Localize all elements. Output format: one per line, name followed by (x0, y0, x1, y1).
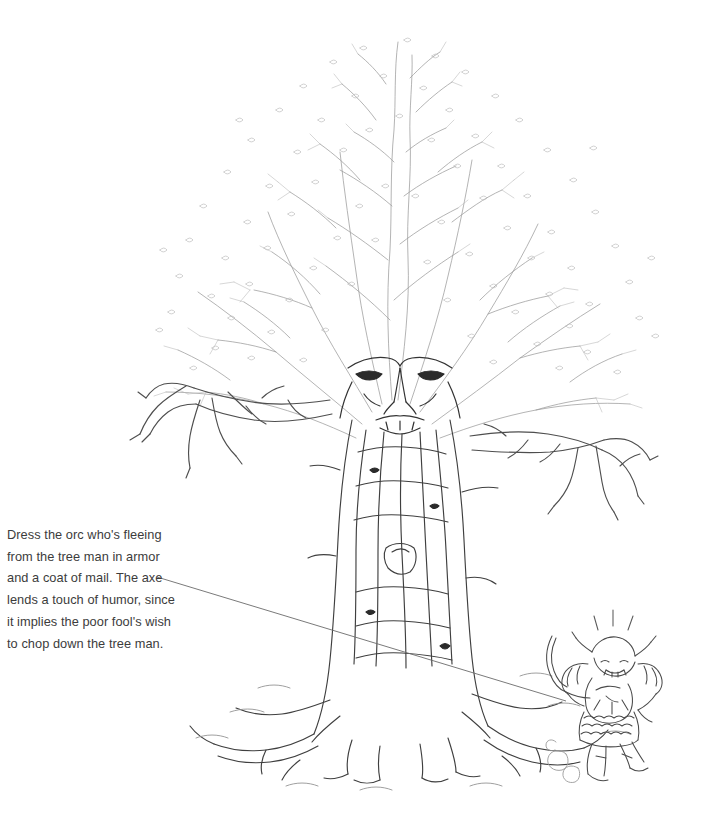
orc-face (601, 661, 628, 678)
canopy-leaves (156, 38, 659, 374)
orc-motion-lines (594, 610, 633, 630)
tree-man-trunk (308, 420, 498, 734)
illustration-page: Dress the orc who's fleeing from the tre… (0, 0, 709, 819)
tree-man-right-arm (470, 424, 658, 520)
orc-mail-skirt (579, 712, 639, 747)
canopy-fine-twigs (154, 42, 642, 412)
fleeing-orc (546, 610, 662, 783)
orc-axe (547, 636, 590, 698)
caption-text: Dress the orc who's fleeing from the tre… (7, 524, 175, 654)
tree-man-roots (190, 694, 608, 783)
ground-debris (196, 673, 630, 790)
orc-dust-puffs (546, 740, 580, 783)
orc-shoulder-armor (562, 663, 662, 694)
orc-legs (587, 742, 648, 781)
orc-arms (568, 694, 656, 722)
canopy-twigs (166, 42, 630, 438)
leader-line (157, 577, 566, 701)
tree-man-left-arm (130, 383, 332, 478)
tree-man-face (340, 357, 460, 434)
orc-breastplate (585, 678, 632, 723)
tree-man-illustration (0, 0, 709, 819)
orc-helmet (572, 632, 656, 676)
